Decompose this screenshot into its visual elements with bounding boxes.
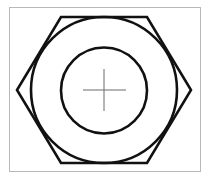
hex-nut-diagram	[0, 0, 209, 177]
